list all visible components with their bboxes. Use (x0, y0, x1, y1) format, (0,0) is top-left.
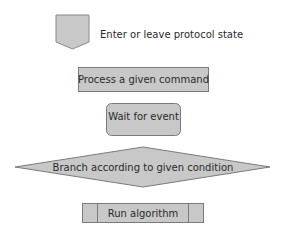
run-algorithm-label: Run algorithm (97, 203, 189, 223)
enter-leave-label: Enter or leave protocol state (100, 29, 243, 40)
pentagon-shape (56, 15, 89, 49)
wait-label: Wait for event (106, 103, 181, 129)
branch-label: Branch according to given condition (15, 157, 271, 177)
process-label: Process a given command (78, 67, 209, 92)
